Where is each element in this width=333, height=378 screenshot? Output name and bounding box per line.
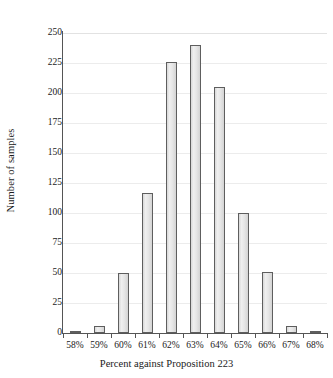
y-tick-label: 100 xyxy=(22,208,62,218)
bar-slot xyxy=(255,33,279,333)
x-axis-title: Percent against Proposition 223 xyxy=(0,358,333,369)
x-tick-label: 68% xyxy=(300,340,330,351)
y-tick-label: 75 xyxy=(22,238,62,248)
x-tick-mark xyxy=(303,334,304,338)
x-tick-mark xyxy=(327,334,328,338)
plot-area xyxy=(63,33,327,333)
x-tick-mark xyxy=(255,334,256,338)
bar[interactable] xyxy=(310,331,321,333)
x-tick-mark xyxy=(159,334,160,338)
y-tick-label: 150 xyxy=(22,148,62,158)
x-tick-mark xyxy=(279,334,280,338)
x-tick-mark xyxy=(87,334,88,338)
x-tick-mark xyxy=(135,334,136,338)
bar-slot xyxy=(303,33,327,333)
bar-slot xyxy=(63,33,87,333)
y-tick-label: 25 xyxy=(22,298,62,308)
bar-slot xyxy=(231,33,255,333)
bar[interactable] xyxy=(190,45,201,333)
bar[interactable] xyxy=(286,326,297,333)
bar-slot xyxy=(111,33,135,333)
y-tick-label: 225 xyxy=(22,58,62,68)
bar-slot xyxy=(159,33,183,333)
bar[interactable] xyxy=(262,272,273,333)
bar[interactable] xyxy=(118,273,129,333)
x-tick-mark xyxy=(207,334,208,338)
bar-slot xyxy=(207,33,231,333)
y-tick-label: 250 xyxy=(22,28,62,38)
y-tick-label: 50 xyxy=(22,268,62,278)
bar-chart: Number of samples 0255075100125150175200… xyxy=(0,0,333,378)
x-tick-mark xyxy=(111,334,112,338)
y-tick-label: 200 xyxy=(22,88,62,98)
bar[interactable] xyxy=(70,331,81,333)
x-tick-mark xyxy=(231,334,232,338)
bar-slot xyxy=(279,33,303,333)
y-tick-label: 175 xyxy=(22,118,62,128)
y-tick-label: 0 xyxy=(22,328,62,338)
y-axis-title-text: Number of samples xyxy=(6,128,17,212)
bar-slot xyxy=(135,33,159,333)
bar-slot xyxy=(87,33,111,333)
x-tick-mark xyxy=(63,334,64,338)
bar[interactable] xyxy=(94,326,105,333)
y-tick-label: 125 xyxy=(22,178,62,188)
bar[interactable] xyxy=(214,87,225,333)
x-axis-line xyxy=(62,333,328,334)
x-tick-mark xyxy=(183,334,184,338)
bar-slot xyxy=(183,33,207,333)
bar[interactable] xyxy=(238,213,249,333)
bar[interactable] xyxy=(142,193,153,333)
y-axis-ticks: 0255075100125150175200225250 xyxy=(16,0,62,378)
bar[interactable] xyxy=(166,62,177,333)
